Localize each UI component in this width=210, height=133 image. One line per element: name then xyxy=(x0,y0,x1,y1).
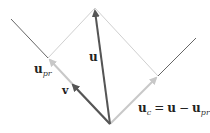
u-c-vector xyxy=(110,78,156,124)
parallelogram-edge-left-top xyxy=(48,8,95,58)
v-span-line-left xyxy=(11,19,48,58)
u-pr-label: upr xyxy=(34,62,53,78)
u-label: u xyxy=(89,50,98,64)
v-label: v xyxy=(61,84,69,97)
u-vector xyxy=(95,11,110,124)
perp-span-line-right xyxy=(158,38,196,76)
u-c-equation-label: uc=u−upr xyxy=(138,101,210,117)
v-vector xyxy=(73,85,110,124)
parallelogram-edge-right-top xyxy=(95,8,158,76)
vector-diagram: u v upr uc=u−upr xyxy=(0,0,210,133)
